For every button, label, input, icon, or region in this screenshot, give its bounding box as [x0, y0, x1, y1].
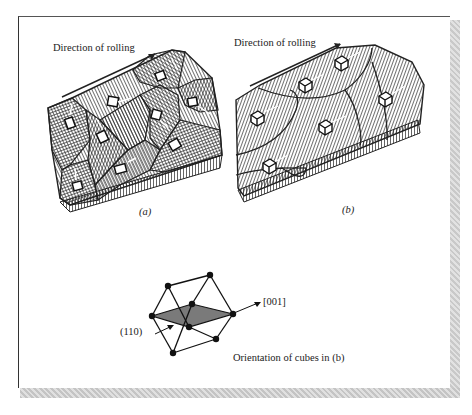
inset-caption-text: Orientation of cubes in (b) — [233, 352, 344, 363]
plane-110-label: (110) — [120, 326, 142, 337]
panel-b-direction-label: Direction of rolling — [234, 37, 316, 48]
panel-b-caption: (b) — [342, 204, 354, 215]
panel-a-slab — [48, 50, 222, 212]
panel-b-slab — [236, 45, 424, 202]
cube-orientation-inset — [149, 272, 261, 356]
panel-a-caption: (a) — [139, 206, 151, 217]
direction-001-label: [001] — [263, 296, 286, 307]
inset-caption: Orientation of cubes in (b) — [233, 352, 344, 363]
panel-a-direction-label: Direction of rolling — [53, 42, 135, 53]
